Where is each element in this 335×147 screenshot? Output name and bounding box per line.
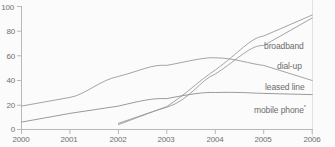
x-tick-label-2000: 2000 (4, 135, 38, 144)
series-label-leased-line: leased line (265, 82, 305, 92)
x-tick-label-2002: 2002 (101, 135, 135, 144)
x-tick-label-2004: 2004 (198, 135, 232, 144)
x-axis-ticks (22, 130, 313, 135)
y-tick-label-40: 40 (0, 76, 15, 85)
chart-screenshot: 100 80 60 40 20 0 2000 2001 2002 2003 20… (0, 0, 335, 147)
series-label-mobile-phone: mobile phone* (254, 105, 306, 115)
x-tick-label-2003: 2003 (149, 135, 183, 144)
y-tick-label-60: 60 (0, 52, 15, 61)
y-tick-label-80: 80 (0, 27, 15, 36)
x-tick-label-2001: 2001 (52, 135, 86, 144)
line-chart-plot (0, 0, 335, 147)
x-tick-label-2005: 2005 (246, 135, 280, 144)
y-tick-label-0: 0 (0, 125, 15, 134)
series-label-broadband: broadband (264, 41, 304, 51)
y-tick-label-20: 20 (0, 101, 15, 110)
series-label-dial-up: dial-up (277, 61, 302, 71)
y-axis-ticks (17, 7, 22, 130)
x-tick-label-2006: 2006 (295, 135, 329, 144)
series-label-mobile-phone-text: mobile phone (254, 105, 304, 115)
footnote-asterisk: * (304, 104, 306, 110)
y-tick-label-100: 100 (0, 3, 14, 12)
